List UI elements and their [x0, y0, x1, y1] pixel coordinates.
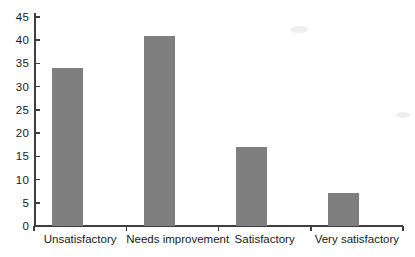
y-axis-tick [34, 202, 40, 204]
y-axis-tick [34, 156, 40, 158]
bar-needs-improvement [144, 36, 175, 226]
x-axis-tick [218, 226, 220, 231]
y-axis-tick [34, 225, 40, 227]
x-category-label: Satisfactory [219, 232, 311, 246]
bar-very-satisfactory [328, 193, 359, 226]
y-tick-label: 10 [0, 173, 29, 187]
x-axis-tick [310, 226, 312, 231]
x-category-label: Needs improvement [126, 232, 218, 246]
bar-unsatisfactory [52, 68, 83, 226]
y-tick-label: 30 [0, 80, 29, 94]
y-tick-label: 5 [0, 196, 29, 210]
y-axis-tick [34, 16, 40, 18]
scan-smudge [396, 112, 410, 118]
x-axis-tick [33, 226, 35, 231]
y-tick-label: 35 [0, 56, 29, 70]
y-tick-label: 20 [0, 126, 29, 140]
scan-smudge [290, 26, 308, 33]
y-axis-tick [34, 63, 40, 65]
x-axis-tick [402, 226, 404, 231]
bar-chart: 051015202530354045UnsatisfactoryNeeds im… [0, 0, 415, 257]
y-axis-tick [34, 109, 40, 111]
y-axis-tick [34, 132, 40, 134]
x-category-label: Very satisfactory [311, 232, 403, 246]
x-category-label: Unsatisfactory [34, 232, 126, 246]
y-tick-label: 0 [0, 219, 29, 233]
y-tick-label: 25 [0, 103, 29, 117]
y-axis-tick [34, 39, 40, 41]
y-axis-tick [34, 86, 40, 88]
y-tick-label: 45 [0, 10, 29, 24]
y-tick-label: 15 [0, 149, 29, 163]
x-axis-tick [126, 226, 128, 231]
y-axis-tick [34, 179, 40, 181]
y-tick-label: 40 [0, 33, 29, 47]
y-axis-line [34, 13, 36, 226]
bar-satisfactory [236, 147, 267, 226]
